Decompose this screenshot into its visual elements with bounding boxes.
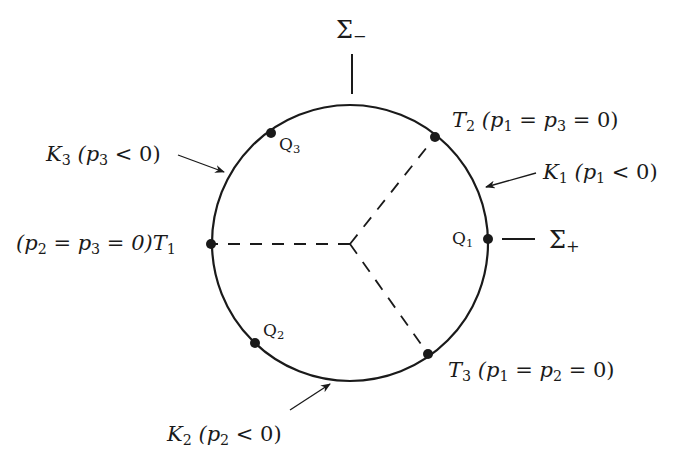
label-K2: K2 (p2 < 0) [167, 424, 282, 447]
point-T2 [430, 132, 440, 142]
label-T2: T2 (p1 = p3 = 0) [452, 110, 618, 133]
label-sigma-plus: Σ+ [549, 228, 580, 255]
dashed-line-to-T3 [350, 244, 428, 354]
label-T1: (p2 = p3 = 0)T1 [16, 233, 176, 256]
arrow-K2 [290, 384, 330, 410]
arrow-K3 [178, 155, 224, 172]
dashed-line-to-T2 [350, 137, 435, 244]
point-T1 [206, 239, 216, 249]
label-K1: K1 (p1 < 0) [543, 162, 658, 185]
label-sigma-minus: Σ− [336, 18, 367, 45]
point-Q1 [483, 234, 493, 244]
point-Q3 [266, 128, 276, 138]
label-T3: T3 (p1 = p2 = 0) [448, 360, 614, 383]
label-Q2: Q2 [263, 322, 284, 341]
label-Q1: Q1 [452, 230, 473, 249]
point-T3 [423, 349, 433, 359]
label-K3: K3 (p3 < 0) [46, 144, 161, 167]
point-Q2 [250, 338, 260, 348]
label-Q3: Q3 [279, 136, 300, 155]
arrow-K1 [486, 173, 536, 187]
